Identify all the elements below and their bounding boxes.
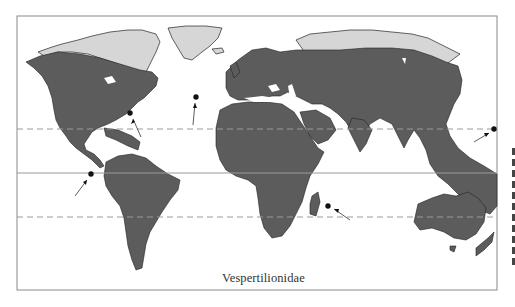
distribution-map-figure: Vespertilionidae: [0, 0, 515, 307]
world-map: [0, 0, 515, 307]
map-caption: Vespertilionidae: [222, 271, 305, 286]
